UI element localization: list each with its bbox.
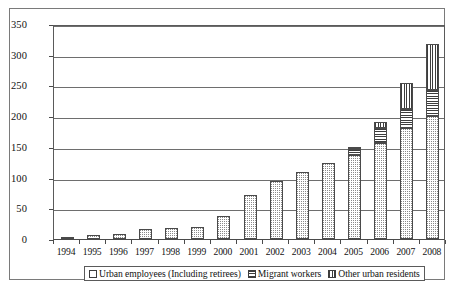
bar-segment[interactable] xyxy=(348,155,361,239)
x-axis-tick-mark xyxy=(79,240,80,244)
bar-segment[interactable] xyxy=(426,44,439,90)
bar-group[interactable] xyxy=(113,24,126,239)
bar-group[interactable] xyxy=(191,24,204,239)
x-axis-tick-mark xyxy=(367,240,368,244)
x-axis-tick-mark xyxy=(184,240,185,244)
y-axis-tick-label: 150 xyxy=(0,143,27,153)
bar-segment[interactable] xyxy=(400,128,413,239)
bar-segment[interactable] xyxy=(374,143,387,239)
x-axis-tick-mark xyxy=(419,240,420,244)
x-axis-tick-mark xyxy=(340,240,341,244)
vertical-lines-swatch xyxy=(328,270,336,278)
x-axis-tick-mark xyxy=(131,240,132,244)
bar-group[interactable] xyxy=(322,24,335,239)
plot-area xyxy=(53,25,445,240)
x-axis-tick-mark xyxy=(236,240,237,244)
dots-swatch xyxy=(89,270,97,278)
x-axis-tick-label: 1996 xyxy=(105,246,131,257)
bar-segment[interactable] xyxy=(322,163,335,239)
legend-label: Other urban residents xyxy=(338,269,420,279)
x-axis-tick-mark xyxy=(158,240,159,244)
bar-group[interactable] xyxy=(270,24,283,239)
x-axis-tick-label: 2004 xyxy=(314,246,340,257)
bar-group[interactable] xyxy=(61,24,74,239)
bar-segment[interactable] xyxy=(374,128,387,143)
bar-segment[interactable] xyxy=(191,227,204,239)
chart-screenshot: 050100150200250300350 199419951996199719… xyxy=(0,0,455,290)
x-axis-tick-label: 2007 xyxy=(393,246,419,257)
x-axis-tick-label: 1999 xyxy=(184,246,210,257)
bar-segment[interactable] xyxy=(139,229,152,239)
x-axis-tick-label: 1998 xyxy=(158,246,184,257)
y-axis-tick-label: 350 xyxy=(0,20,27,30)
bar-segment[interactable] xyxy=(374,122,387,128)
horizontal-lines-swatch xyxy=(248,270,256,278)
bar-group[interactable] xyxy=(217,24,230,239)
bar-segment[interactable] xyxy=(426,116,439,239)
bar-segment[interactable] xyxy=(113,234,126,239)
bar-segment[interactable] xyxy=(165,228,178,239)
x-axis-tick-label: 2001 xyxy=(236,246,262,257)
x-axis-tick-label: 1994 xyxy=(53,246,79,257)
bar-group[interactable] xyxy=(348,24,361,239)
bar-segment[interactable] xyxy=(61,237,74,239)
x-axis-tick-mark xyxy=(210,240,211,244)
chart-frame: 050100150200250300350 199419951996199719… xyxy=(9,8,445,280)
y-axis-tick-label: 0 xyxy=(0,235,27,245)
legend-label: Migrant workers xyxy=(258,269,321,279)
x-axis-tick-label: 2008 xyxy=(419,246,445,257)
y-axis-tick-label: 250 xyxy=(0,81,27,91)
bar-group[interactable] xyxy=(165,24,178,239)
bar-segment[interactable] xyxy=(270,181,283,239)
x-axis-tick-label: 2000 xyxy=(210,246,236,257)
legend-item[interactable]: Migrant workers xyxy=(248,269,321,279)
y-axis-tick-label: 100 xyxy=(0,174,27,184)
x-axis-tick-mark xyxy=(262,240,263,244)
bar-segment[interactable] xyxy=(400,109,413,128)
chart-legend: Urban employees (Including retirees)Migr… xyxy=(84,266,425,281)
y-axis-tick-label: 300 xyxy=(0,51,27,61)
x-axis-tick-label: 2005 xyxy=(340,246,366,257)
bar-segment[interactable] xyxy=(296,172,309,239)
bar-group[interactable] xyxy=(374,24,387,239)
legend-label: Urban employees (Including retirees) xyxy=(99,269,241,279)
bar-segment[interactable] xyxy=(87,235,100,239)
x-axis-tick-mark xyxy=(105,240,106,244)
x-axis-tick-mark xyxy=(393,240,394,244)
bar-group[interactable] xyxy=(296,24,309,239)
bar-segment[interactable] xyxy=(348,149,361,155)
x-axis-tick-label: 2002 xyxy=(262,246,288,257)
bar-segment[interactable] xyxy=(400,83,413,109)
legend-item[interactable]: Urban employees (Including retirees) xyxy=(89,269,241,279)
y-axis-tick-label: 50 xyxy=(0,204,27,214)
legend-item[interactable]: Other urban residents xyxy=(328,269,420,279)
x-axis-tick-mark xyxy=(288,240,289,244)
bar-group[interactable] xyxy=(139,24,152,239)
x-axis-tick-label: 2003 xyxy=(288,246,314,257)
bar-segment[interactable] xyxy=(426,90,439,116)
bar-segment[interactable] xyxy=(348,147,361,149)
bar-segment[interactable] xyxy=(217,216,230,239)
bar-group[interactable] xyxy=(244,24,257,239)
bar-group[interactable] xyxy=(426,24,439,239)
x-axis-tick-label: 2006 xyxy=(367,246,393,257)
x-axis-tick-mark xyxy=(53,240,54,244)
bar-group[interactable] xyxy=(400,24,413,239)
x-axis-tick-label: 1997 xyxy=(131,246,157,257)
bar-group[interactable] xyxy=(87,24,100,239)
x-axis-tick-mark xyxy=(445,240,446,244)
x-axis-tick-label: 1995 xyxy=(79,246,105,257)
x-axis-tick-mark xyxy=(314,240,315,244)
y-axis-tick-label: 200 xyxy=(0,112,27,122)
bar-segment[interactable] xyxy=(244,195,257,239)
